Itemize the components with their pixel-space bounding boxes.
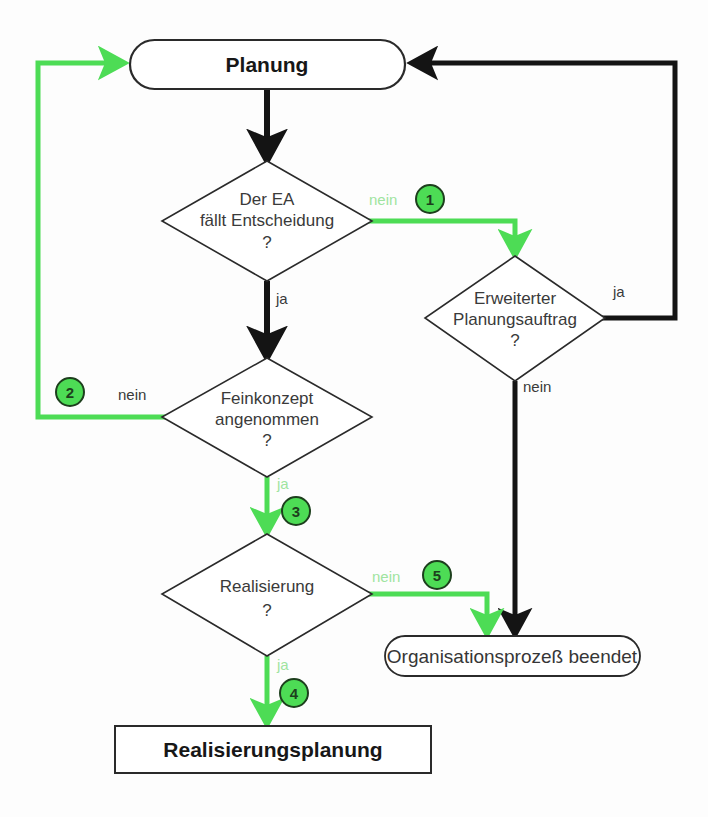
node-decision-realisierung-line2: ? (262, 601, 271, 620)
node-decision-ea-line1: Der EA (240, 190, 295, 209)
node-decision-ea-line3: ? (262, 233, 271, 252)
edge-decision-ea-nein-to-auftrag (345, 221, 515, 255)
marker-2-number: 2 (66, 384, 74, 401)
marker-3-number: 3 (292, 503, 300, 520)
node-process-plan-label: Realisierungsplanung (163, 738, 382, 761)
node-planung[interactable]: Planung (130, 40, 405, 89)
node-decision-feinkonzept-line2: angenommen (215, 410, 319, 429)
edge-label-ea-nein: nein (369, 191, 397, 208)
marker-2[interactable]: 2 (56, 378, 84, 406)
marker-1-number: 1 (426, 191, 434, 208)
edge-label-ea-ja: ja (275, 290, 288, 307)
flowchart-svg: Planung Der EA fällt Entscheidung ? Erwe… (0, 0, 708, 817)
marker-5[interactable]: 5 (423, 561, 451, 589)
node-decision-feinkonzept[interactable]: Feinkonzept angenommen ? (162, 358, 372, 477)
edge-label-auftrag-nein: nein (523, 378, 551, 395)
node-decision-realisierung-line1: Realisierung (220, 577, 315, 596)
node-decision-feinkonzept-line3: ? (262, 431, 271, 450)
node-decision-auftrag-line2: Planungsauftrag (453, 310, 577, 329)
flowchart-canvas: Planung Der EA fällt Entscheidung ? Erwe… (0, 0, 708, 817)
node-process-plan[interactable]: Realisierungsplanung (115, 726, 431, 773)
node-decision-ea-line2: fällt Entscheidung (200, 211, 334, 230)
marker-4-number: 4 (290, 685, 299, 702)
node-planung-label: Planung (226, 53, 309, 76)
edge-feinkonzept-nein-loop-to-planung (38, 63, 189, 417)
marker-3[interactable]: 3 (282, 497, 310, 525)
marker-1[interactable]: 1 (416, 185, 444, 213)
node-end-process-label: Organisationsprozeß beendet (387, 646, 638, 667)
edge-label-realisierung-ja: ja (276, 656, 289, 673)
edge-label-realisierung-nein: nein (372, 568, 400, 585)
edge-realisierung-nein-to-end (345, 594, 487, 634)
marker-5-number: 5 (433, 567, 441, 584)
node-decision-auftrag-line3: ? (510, 331, 519, 350)
node-decision-auftrag[interactable]: Erweiterter Planungsauftrag ? (425, 256, 605, 381)
edge-label-feinkonzept-ja: ja (276, 475, 289, 492)
node-decision-auftrag-line1: Erweiterter (474, 289, 557, 308)
marker-4[interactable]: 4 (280, 679, 308, 707)
node-decision-realisierung[interactable]: Realisierung ? (162, 534, 372, 656)
node-decision-ea[interactable]: Der EA fällt Entscheidung ? (162, 161, 372, 281)
edge-label-auftrag-ja: ja (612, 283, 625, 300)
node-decision-feinkonzept-line1: Feinkonzept (221, 389, 314, 408)
node-end-process[interactable]: Organisationsprozeß beendet (385, 636, 640, 676)
edge-label-feinkonzept-nein: nein (118, 386, 146, 403)
